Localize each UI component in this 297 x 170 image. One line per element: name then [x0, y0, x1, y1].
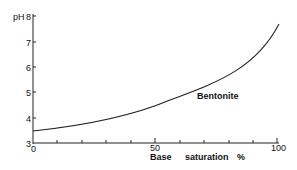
bentonite-curve — [33, 24, 279, 131]
y-tick-5: 5 — [26, 88, 31, 98]
x-axis-label-base: Base — [150, 152, 172, 162]
x-tick-100: 100 — [271, 143, 286, 153]
x-axis-label-saturation: saturation — [185, 152, 229, 162]
curve-label: Bentonite — [197, 91, 239, 101]
x-axis-label-unit: % — [237, 152, 245, 162]
y-tick-7: 7 — [26, 38, 31, 48]
y-tick-6: 6 — [26, 63, 31, 73]
y-tick-4: 4 — [26, 114, 31, 124]
x-tick-0: 0 — [31, 144, 36, 154]
x-ticks — [57, 138, 277, 143]
chart: pH 8 7 6 5 4 3 0 50 100 Base saturation … — [0, 0, 297, 170]
y-axis-label: pH — [13, 12, 25, 22]
y-tick-8: 8 — [26, 12, 31, 22]
